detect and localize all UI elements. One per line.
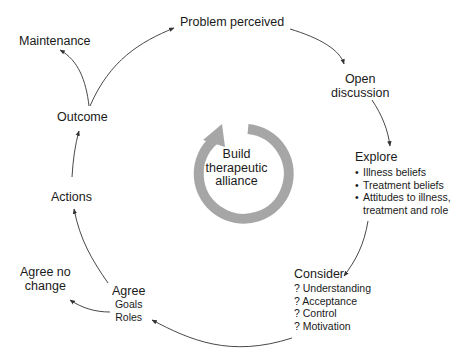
arrow-outcome-to-maintenance xyxy=(60,50,89,106)
explore-item: Treatment beliefs xyxy=(355,179,451,192)
arrow-open-to-explore xyxy=(372,100,390,146)
consider-item: ? Understanding xyxy=(294,282,371,295)
arrow-actions-to-outcome xyxy=(72,131,79,177)
node-problem-perceived: Problem perceived xyxy=(180,15,284,29)
node-actions: Actions xyxy=(51,190,92,204)
arrow-problem-to-open xyxy=(290,29,344,64)
node-consider: Consider ? Understanding ? Acceptance ? … xyxy=(294,267,371,332)
node-agree-no-change: Agree no change xyxy=(20,265,71,293)
node-open-discussion: Open discussion xyxy=(331,72,389,100)
node-maintenance: Maintenance xyxy=(19,34,91,48)
explore-item: Illness beliefs xyxy=(355,166,451,179)
agree-item: Goals xyxy=(112,298,145,311)
center-label: Build therapeutic alliance xyxy=(199,148,274,189)
arrow-outcome-to-problem xyxy=(90,28,174,106)
node-agree: Agree Goals Roles xyxy=(112,284,145,323)
arrow-agree-to-nochange xyxy=(70,300,110,312)
explore-item-continuation: treatment and role xyxy=(355,204,451,217)
arrow-agree-to-actions xyxy=(74,209,108,283)
arrow-consider-to-agree xyxy=(152,320,292,347)
node-explore: Explore Illness beliefs Treatment belief… xyxy=(355,150,451,216)
agree-item: Roles xyxy=(112,311,145,324)
explore-item: Attitudes to illness, xyxy=(355,191,451,204)
consider-item: ? Acceptance xyxy=(294,295,371,308)
consider-item: ? Motivation xyxy=(294,320,371,333)
consider-item: ? Control xyxy=(294,307,371,320)
node-outcome: Outcome xyxy=(57,110,108,124)
